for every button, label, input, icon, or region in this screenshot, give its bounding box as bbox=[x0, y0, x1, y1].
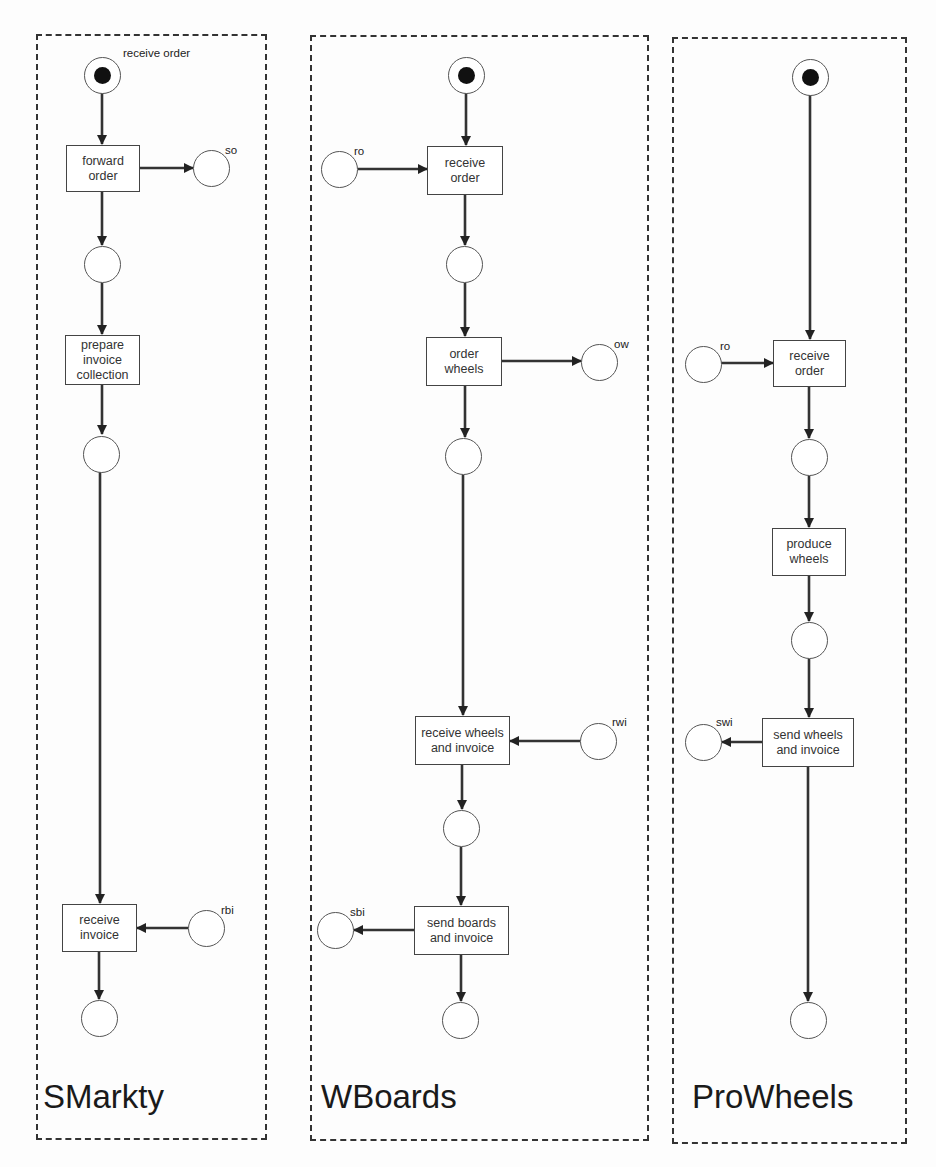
place-rwi[interactable] bbox=[580, 723, 617, 760]
place-rbi[interactable] bbox=[188, 910, 225, 947]
end-place-prowheels[interactable] bbox=[790, 1002, 827, 1039]
lane-label-wboards: WBoards bbox=[321, 1078, 457, 1116]
place-swi[interactable] bbox=[685, 724, 722, 761]
place-label-rwi: rwi bbox=[612, 716, 627, 728]
transition-receive-wheels-and-invoice[interactable]: receive wheels and invoice bbox=[415, 716, 510, 765]
place-wboards-2[interactable] bbox=[445, 438, 482, 475]
transition-send-boards-and-invoice[interactable]: send boards and invoice bbox=[414, 906, 509, 955]
transition-forward-order[interactable]: forward order bbox=[66, 145, 140, 192]
place-label-swi: swi bbox=[716, 716, 733, 728]
petri-net-diagram: SMarkty receive order forward order so p… bbox=[0, 0, 936, 1167]
transition-produce-wheels[interactable]: produce wheels bbox=[772, 528, 846, 576]
place-wboards-3[interactable] bbox=[443, 810, 480, 847]
place-prowheels-1[interactable] bbox=[791, 439, 828, 476]
token-icon bbox=[458, 67, 475, 84]
lane-prowheels bbox=[672, 37, 907, 1144]
token-icon bbox=[802, 69, 819, 86]
place-label-ro: ro bbox=[354, 145, 364, 157]
place-smarkty-2[interactable] bbox=[83, 436, 120, 473]
place-ro-prowheels[interactable] bbox=[685, 346, 722, 383]
transition-receive-order-wboards[interactable]: receive order bbox=[427, 146, 503, 195]
lane-label-smarkty: SMarkty bbox=[43, 1078, 164, 1116]
place-label-ow: ow bbox=[614, 338, 629, 350]
start-place-label: receive order bbox=[123, 47, 190, 59]
place-label-sbi: sbi bbox=[350, 906, 365, 918]
place-ro-wboards[interactable] bbox=[321, 151, 358, 188]
transition-prepare-invoice-collection[interactable]: prepare invoice collection bbox=[65, 335, 140, 385]
end-place-wboards[interactable] bbox=[442, 1002, 479, 1039]
place-sbi[interactable] bbox=[317, 912, 354, 949]
place-label-so: so bbox=[225, 144, 237, 156]
lane-smarkty bbox=[36, 34, 267, 1140]
token-icon bbox=[94, 67, 111, 84]
transition-order-wheels[interactable]: order wheels bbox=[426, 337, 502, 386]
lane-wboards bbox=[310, 35, 649, 1141]
transition-send-wheels-and-invoice[interactable]: send wheels and invoice bbox=[762, 718, 854, 767]
transition-receive-invoice[interactable]: receive invoice bbox=[62, 904, 137, 952]
place-prowheels-2[interactable] bbox=[791, 622, 828, 659]
place-label-ro-prowheels: ro bbox=[720, 340, 730, 352]
transition-receive-order-prowheels[interactable]: receive order bbox=[773, 340, 846, 387]
lane-label-prowheels: ProWheels bbox=[692, 1078, 853, 1116]
place-wboards-1[interactable] bbox=[446, 246, 483, 283]
place-ow[interactable] bbox=[581, 344, 618, 381]
end-place-smarkty[interactable] bbox=[81, 1000, 118, 1037]
place-label-rbi: rbi bbox=[221, 904, 234, 916]
place-smarkty-1[interactable] bbox=[84, 246, 121, 283]
